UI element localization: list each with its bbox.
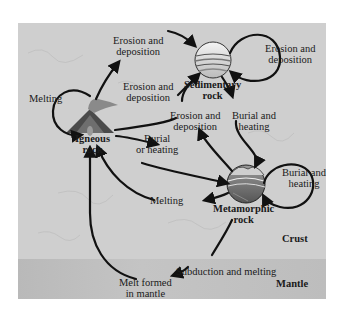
- label-line: Burial: [136, 133, 178, 144]
- label-mantle: Mantle: [276, 278, 308, 289]
- label-line: in mantle: [119, 288, 172, 299]
- label-line: heating: [232, 121, 276, 132]
- label-metamorphic-rock: Metamorphic rock: [213, 203, 274, 225]
- label-line: Burial and: [232, 110, 276, 121]
- label-burial-met-loop: Burial and heating: [282, 167, 326, 189]
- label-erosion-top: Erosion and deposition: [113, 35, 163, 57]
- label-line: deposition: [123, 92, 173, 103]
- label-line: Igneous: [75, 133, 110, 144]
- label-melt-formed-in-mantle: Melt formed in mantle: [119, 277, 172, 299]
- label-igneous-rock: Igneous rock: [75, 133, 110, 155]
- label-erosion-ign-to-sed: Erosion and deposition: [123, 81, 173, 103]
- label-line: or heating: [136, 144, 178, 155]
- label-line: Burial and: [282, 167, 326, 178]
- label-line: deposition: [113, 46, 163, 57]
- label-line: deposition: [170, 121, 220, 132]
- label-line: Erosion and: [123, 81, 173, 92]
- label-melting-met-to-ign: Melting: [150, 195, 183, 206]
- igneous-rock-icon: [66, 99, 118, 136]
- label-erosion-sed-loop: Erosion and deposition: [265, 43, 315, 65]
- rock-cycle-diagram: Erosion and deposition Erosion and depos…: [18, 23, 326, 299]
- label-sedimentary-rock: Sedimentary rock: [184, 79, 241, 101]
- label-line: Sedimentary: [184, 79, 241, 90]
- label-line: rock: [75, 144, 110, 155]
- label-line: rock: [184, 90, 241, 101]
- label-burial-ign-to-met: Burial or heating: [136, 133, 178, 155]
- label-line: Melt formed: [119, 277, 172, 288]
- label-line: heating: [282, 178, 326, 189]
- label-erosion-met-to-sed: Erosion and deposition: [170, 110, 220, 132]
- label-line: Erosion and: [170, 110, 220, 121]
- sedimentary-rock-icon: [195, 42, 231, 78]
- label-burial-sed-to-met: Burial and heating: [232, 110, 276, 132]
- label-line: Erosion and: [113, 35, 163, 46]
- label-line: rock: [213, 214, 274, 225]
- label-line: Metamorphic: [213, 203, 274, 214]
- label-line: deposition: [265, 54, 315, 65]
- label-crust: Crust: [282, 233, 308, 244]
- label-melting-igneous-loop: Melting: [29, 93, 62, 104]
- label-subduction: Subduction and melting: [176, 266, 276, 277]
- label-line: Erosion and: [265, 43, 315, 54]
